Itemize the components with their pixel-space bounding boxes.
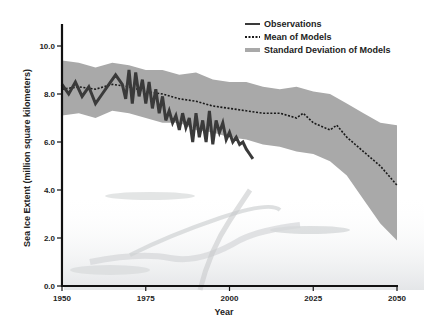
y-tick-label: 8.0 <box>44 90 56 99</box>
x-axis-title: Year <box>214 307 234 317</box>
y-tick-label: 2.0 <box>44 234 56 243</box>
y-tick-label: 0.0 <box>44 282 56 291</box>
x-tick-label: 2025 <box>304 294 322 303</box>
x-tick-label: 1975 <box>137 294 155 303</box>
x-tick-label: 2050 <box>388 294 406 303</box>
legend-observations-label: Observations <box>264 19 322 29</box>
legend-mean-label: Mean of Models <box>264 32 332 42</box>
x-tick-label: 1950 <box>53 294 71 303</box>
sea-ice-chart: 0.02.04.06.08.010.0 19501975200020252050… <box>0 0 430 336</box>
legend: Observations Mean of Models Standard Dev… <box>245 19 391 55</box>
x-tick-label: 2000 <box>221 294 239 303</box>
y-axis-ticks: 0.02.04.06.08.010.0 <box>39 42 62 291</box>
legend-std-swatch <box>245 48 260 52</box>
y-tick-label: 4.0 <box>44 186 56 195</box>
y-axis-title: Sea Ice Extent (million square kilometer… <box>22 69 32 247</box>
y-tick-label: 10.0 <box>39 42 55 51</box>
legend-std-label: Standard Deviation of Models <box>264 45 391 55</box>
y-tick-label: 6.0 <box>44 138 56 147</box>
